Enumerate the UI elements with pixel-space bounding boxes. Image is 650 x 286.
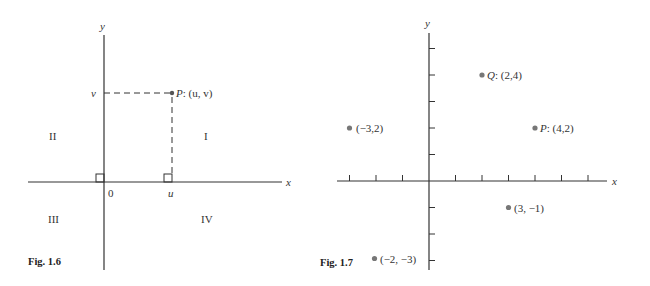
- svg-text:Q: (2,4): Q: (2,4): [487, 69, 522, 82]
- figure-caption: Fig. 1.7: [320, 257, 353, 268]
- y-axis-label: y: [99, 20, 105, 32]
- right-angle-marker-origin: [96, 174, 104, 182]
- quadrant-ii-label: II: [49, 130, 57, 142]
- y-axis-ticks: [429, 49, 435, 261]
- x-axis-ticks: [350, 175, 589, 181]
- x-axis-label: x: [611, 175, 617, 187]
- quadrant-iv-label: IV: [201, 213, 213, 225]
- svg-text:P: (4,2): P: (4,2): [539, 122, 574, 135]
- x-axis-label: x: [285, 176, 291, 188]
- u-label: u: [168, 187, 174, 199]
- figure-caption: Fig. 1.6: [28, 256, 61, 267]
- right-angle-marker-u: [164, 174, 172, 182]
- figure-1-6: x y P: (u, v) v 0 u II I III IV Fig. 1.6: [28, 20, 291, 270]
- point-p: P: (4,2): [532, 122, 574, 135]
- point-p-label: P: (u, v): [175, 87, 213, 100]
- point-3-neg1: (3, −1): [506, 202, 544, 215]
- point-neg3-2: (−3,2): [347, 122, 384, 135]
- figure-1-7: x y Q: (2,4): [320, 17, 617, 270]
- point-p: [170, 91, 174, 95]
- quadrant-iii-label: III: [48, 213, 59, 225]
- svg-text:(3, −1): (3, −1): [514, 202, 544, 215]
- point-neg2-neg3: (−2, −3): [372, 253, 417, 266]
- svg-text:(−3,2): (−3,2): [356, 122, 384, 135]
- figures-canvas: x y P: (u, v) v 0 u II I III IV Fig. 1.6…: [0, 0, 650, 286]
- quadrant-i-label: I: [204, 130, 208, 142]
- point-q: Q: (2,4): [479, 69, 522, 82]
- svg-text:(−2, −3): (−2, −3): [380, 253, 417, 266]
- v-label: v: [91, 87, 96, 99]
- y-axis-label: y: [424, 17, 430, 29]
- origin-label: 0: [108, 187, 114, 199]
